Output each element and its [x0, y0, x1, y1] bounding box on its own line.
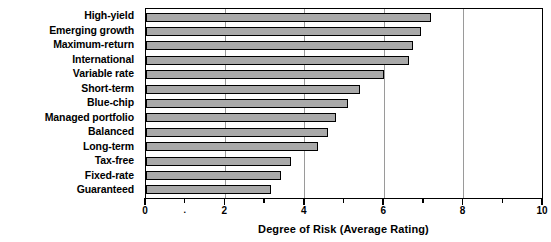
x-axis-title: Degree of Risk (Average Rating) — [145, 223, 542, 235]
x-axis-ticks — [145, 198, 542, 206]
bar-row — [146, 168, 542, 182]
category-label-managed-portfolio: Managed portfolio — [0, 110, 139, 125]
x-tick-label-8: 8 — [460, 206, 466, 216]
bar-fixed-rate[interactable] — [146, 171, 281, 180]
category-label-high-yield: High-yield — [0, 8, 139, 23]
bar-emerging-growth[interactable] — [146, 27, 421, 36]
bar-long-term[interactable] — [146, 142, 318, 151]
category-label-short-term: Short-term — [0, 81, 139, 96]
x-tick-label-0: 0 — [142, 206, 148, 216]
category-axis: High-yield Emerging growth Maximum-retur… — [0, 8, 139, 197]
x-tick-minor-5 — [343, 198, 345, 203]
x-axis-tick-labels: 0.246810 — [145, 206, 542, 219]
bar-international[interactable] — [146, 56, 409, 65]
x-tick-label-4: 4 — [301, 206, 307, 216]
bar-blue-chip[interactable] — [146, 99, 348, 108]
bar-row — [146, 10, 542, 24]
category-label-blue-chip: Blue-chip — [0, 95, 139, 110]
bar-row — [146, 39, 542, 53]
category-label-long-term: Long-term — [0, 139, 139, 154]
x-tick-major-10 — [541, 198, 543, 205]
bar-row — [146, 111, 542, 125]
bar-row — [146, 154, 542, 168]
category-label-maximum-return: Maximum-return — [0, 37, 139, 52]
bar-high-yield[interactable] — [146, 13, 431, 22]
plot-inner — [146, 9, 542, 198]
bar-maximum-return[interactable] — [146, 41, 413, 50]
category-label-variable-rate: Variable rate — [0, 66, 139, 81]
x-tick-label-2: 2 — [222, 206, 228, 216]
bar-managed-portfolio[interactable] — [146, 113, 336, 122]
bar-series — [146, 9, 542, 198]
x-tick-minor-3 — [263, 198, 265, 203]
bar-chart: High-yield Emerging growth Maximum-retur… — [0, 0, 551, 242]
x-tick-major-4 — [303, 198, 305, 205]
category-label-guaranteed: Guaranteed — [0, 182, 139, 197]
x-tick-minor-1 — [184, 198, 186, 203]
x-tick-major-6 — [382, 198, 384, 205]
x-tick-major-8 — [462, 198, 464, 205]
bar-row — [146, 53, 542, 67]
x-tick-label-1: . — [183, 206, 186, 215]
category-label-emerging-growth: Emerging growth — [0, 23, 139, 38]
bar-row — [146, 140, 542, 154]
bar-tax-free[interactable] — [146, 157, 291, 166]
bar-row — [146, 125, 542, 139]
category-label-tax-free: Tax-free — [0, 153, 139, 168]
bar-guaranteed[interactable] — [146, 185, 271, 194]
bar-row — [146, 24, 542, 38]
bar-row — [146, 183, 542, 197]
plot-area — [145, 8, 543, 199]
x-tick-label-6: 6 — [380, 206, 386, 216]
x-tick-minor-7 — [422, 198, 424, 203]
category-label-international: International — [0, 52, 139, 67]
category-label-fixed-rate: Fixed-rate — [0, 168, 139, 183]
bar-balanced[interactable] — [146, 128, 328, 137]
bar-variable-rate[interactable] — [146, 70, 384, 79]
x-tick-major-0 — [144, 198, 146, 205]
x-tick-major-2 — [224, 198, 226, 205]
x-tick-minor-9 — [502, 198, 504, 203]
x-tick-label-10: 10 — [536, 206, 547, 216]
bar-row — [146, 82, 542, 96]
category-label-balanced: Balanced — [0, 124, 139, 139]
bar-short-term[interactable] — [146, 85, 360, 94]
bar-row — [146, 68, 542, 82]
bar-row — [146, 96, 542, 110]
